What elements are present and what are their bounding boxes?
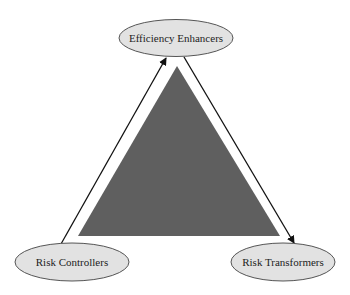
node-risk-transformers: Risk Transformers: [231, 243, 335, 281]
node-label: Efficiency Enhancers: [129, 32, 223, 44]
node-risk-controllers: Risk Controllers: [15, 243, 129, 281]
triangle-diagram: Efficiency Enhancers Risk Controllers Ri…: [0, 0, 350, 295]
central-triangle: [78, 66, 280, 236]
node-label: Risk Controllers: [36, 256, 108, 268]
node-efficiency-enhancers: Efficiency Enhancers: [119, 20, 233, 57]
node-label: Risk Transformers: [242, 256, 324, 268]
